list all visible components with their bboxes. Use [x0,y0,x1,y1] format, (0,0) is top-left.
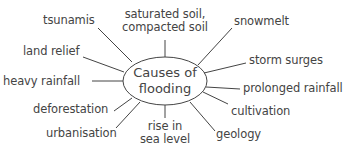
cause-tsunamis: tsunamis [43,14,95,27]
center-line-2: flooding [123,81,207,97]
cause-saturated-soil: saturated soil, compacted soil [122,8,208,34]
cause-heavy-rainfall: heavy rainfall [3,75,80,88]
cause-prolonged-rainfall: prolonged rainfall [243,82,343,95]
cause-cultivation: cultivation [231,105,290,118]
cause-snowmelt: snowmelt [234,15,289,28]
line-storm-surges [204,63,246,73]
line-prolonged-rainfall [206,87,240,89]
cause-deforestation: deforestation [33,103,108,116]
center-line-1: Causes of [123,65,207,81]
cause-storm-surges: storm surges [249,54,323,67]
cause-saturated-soil-line-2: compacted soil [122,21,208,34]
cause-urbanisation: urbanisation [46,127,117,140]
cause-rise-in-sea-level: rise in sea level [135,120,195,146]
center-node: Causes of flooding [123,65,207,97]
cause-rise-in-sea-level-line-2: sea level [135,133,195,146]
line-land-relief [83,57,124,72]
cause-land-relief: land relief [23,45,79,58]
cause-geology: geology [216,128,261,141]
line-deforestation [114,98,132,111]
